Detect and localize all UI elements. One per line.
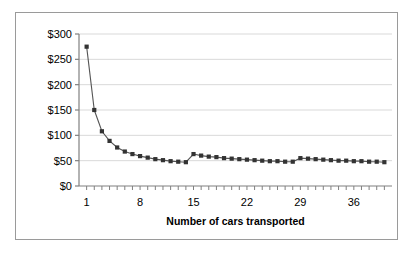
data-point[interactable] [138,154,142,158]
y-tick-label: $250 [48,53,72,65]
data-point[interactable] [352,159,356,163]
data-point[interactable] [268,159,272,163]
data-point[interactable] [359,159,363,163]
x-axis-minor-ticks [87,186,385,190]
data-point[interactable] [146,156,150,160]
data-point[interactable] [367,160,371,164]
chart-figure: $0$50$100$150$200$250$300 1815222936 Num… [0,0,414,255]
x-tick-label: 15 [187,196,199,208]
data-point[interactable] [176,160,180,164]
data-point[interactable] [252,158,256,162]
chart-frame: $0$50$100$150$200$250$300 1815222936 Num… [15,12,398,240]
data-point[interactable] [230,157,234,161]
y-tick-label: $150 [48,104,72,116]
data-point[interactable] [85,45,89,49]
y-tick-label: $200 [48,79,72,91]
data-point[interactable] [107,139,111,143]
y-tick-label: $0 [60,180,72,192]
data-point[interactable] [344,159,348,163]
x-tick-label: 8 [137,196,143,208]
gridlines [79,34,392,161]
y-axis-tick-labels: $0$50$100$150$200$250$300 [48,28,72,192]
y-tick-label: $50 [54,155,72,167]
data-point[interactable] [207,155,211,159]
x-tick-label: 36 [348,196,360,208]
data-point[interactable] [191,152,195,156]
x-tick-label: 29 [294,196,306,208]
data-point[interactable] [291,160,295,164]
x-axis-tick-labels: 1815222936 [84,196,360,208]
data-point[interactable] [199,154,203,158]
data-point[interactable] [184,160,188,164]
data-point[interactable] [321,158,325,162]
line-chart[interactable]: $0$50$100$150$200$250$300 1815222936 Num… [16,13,397,239]
data-point[interactable] [92,108,96,112]
data-point[interactable] [115,145,119,149]
data-point[interactable] [214,155,218,159]
data-point[interactable] [237,157,241,161]
data-point[interactable] [100,129,104,133]
x-tick-label: 1 [84,196,90,208]
data-point[interactable] [298,156,302,160]
data-point[interactable] [283,160,287,164]
data-point[interactable] [245,158,249,162]
data-point[interactable] [375,160,379,164]
x-tick-label: 22 [241,196,253,208]
data-point[interactable] [222,156,226,160]
data-point[interactable] [169,159,173,163]
data-point[interactable] [314,157,318,161]
data-point[interactable] [306,157,310,161]
data-point[interactable] [382,160,386,164]
y-tick-label: $300 [48,28,72,40]
data-point[interactable] [275,159,279,163]
data-point[interactable] [336,159,340,163]
series-line [87,47,385,163]
data-point[interactable] [123,149,127,153]
x-axis-title: Number of cars transported [166,215,304,227]
y-tick-label: $100 [48,129,72,141]
data-point[interactable] [329,158,333,162]
data-point[interactable] [260,159,264,163]
data-point[interactable] [130,152,134,156]
series-markers[interactable] [85,45,387,165]
data-point[interactable] [153,157,157,161]
data-point[interactable] [161,158,165,162]
